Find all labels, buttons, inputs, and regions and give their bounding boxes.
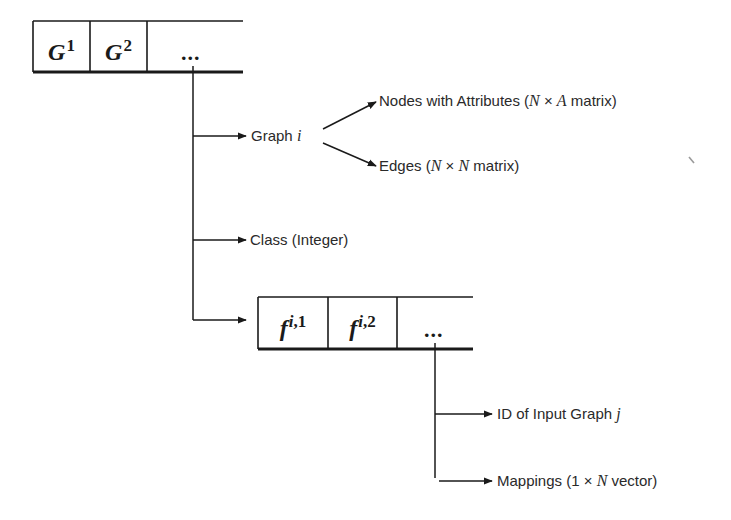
nodes-suffix: matrix) [567, 92, 617, 109]
input-graph-index-var: j [616, 405, 620, 422]
nodes-arrow [323, 102, 376, 129]
top-array-ellipsis: ... [181, 40, 201, 66]
edges-label: Edges (N × N matrix) [379, 157, 519, 175]
cell-base: G [105, 39, 122, 65]
nodes-attributes-label: Nodes with Attributes (N × A matrix) [379, 92, 617, 110]
cell-superscript-rest: ,2 [363, 312, 376, 331]
class-label: Class (Integer) [250, 231, 348, 249]
mapping-array-cell-f1: fi,1 [258, 297, 328, 349]
nodes-dim-n: N [529, 92, 540, 109]
mapping-array-cell-f2: fi,2 [328, 297, 397, 349]
mapping-array-ellipsis: ... [424, 317, 444, 343]
top-array-cell-g1: G1 [33, 21, 90, 71]
cell-superscript-rest: ,1 [293, 312, 306, 331]
cell-superscript: 2 [123, 36, 132, 55]
top-array-cell-g2: G2 [90, 21, 147, 71]
edges-dim-n1: N [431, 157, 442, 174]
input-graph-id-text: ID of Input Graph [497, 405, 616, 422]
edges-prefix: Edges ( [379, 157, 431, 174]
mappings-prefix: Mappings (1 × [497, 472, 597, 489]
graph-label: Graph i [251, 127, 301, 145]
mappings-dim-n: N [597, 472, 608, 489]
cell-base: f [349, 315, 357, 341]
edges-arrow [323, 143, 376, 166]
diagram-canvas [0, 0, 731, 520]
nodes-times: × [540, 92, 557, 109]
cell-base: G [48, 39, 65, 65]
cell-base: f [280, 315, 288, 341]
mappings-suffix: vector) [607, 472, 657, 489]
input-graph-id-label: ID of Input Graph j [497, 405, 621, 423]
nodes-prefix: Nodes with Attributes ( [379, 92, 529, 109]
scan-artifact-mark [689, 157, 694, 163]
edges-times: × [441, 157, 458, 174]
cell-superscript: 1 [66, 36, 75, 55]
graph-index-var: i [297, 127, 301, 144]
nodes-dim-a: A [557, 92, 567, 109]
edges-dim-n2: N [458, 157, 469, 174]
edges-suffix: matrix) [469, 157, 519, 174]
graph-label-text: Graph [251, 127, 293, 144]
mappings-vector-label: Mappings (1 × N vector) [497, 472, 657, 490]
